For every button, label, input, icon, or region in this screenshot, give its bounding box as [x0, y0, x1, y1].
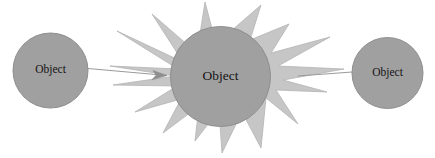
- node-right-object[interactable]: Object: [352, 38, 423, 109]
- node-left-object[interactable]: Object: [13, 33, 88, 108]
- node-center-object[interactable]: Object: [171, 27, 271, 127]
- diagram-canvas: Object Object Object: [0, 0, 435, 158]
- right-object-label: Object: [372, 66, 403, 79]
- center-object-label: Object: [203, 68, 239, 83]
- left-object-label: Object: [35, 63, 66, 76]
- object-interaction-diagram: Object Object Object: [0, 0, 435, 158]
